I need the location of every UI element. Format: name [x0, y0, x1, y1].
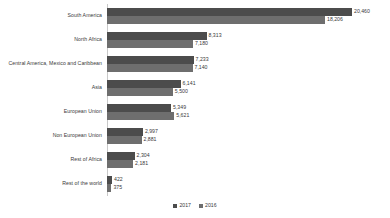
bar-value-2016: 18,206: [327, 17, 343, 22]
bar-value-2017: 7,233: [196, 57, 209, 62]
category-label: Rest of Africa: [0, 157, 106, 163]
legend-item-2016[interactable]: 2016: [199, 203, 217, 208]
bar-rows: South America 20,460 18,206 North Africa: [0, 4, 390, 196]
bar-2016[interactable]: [107, 160, 133, 168]
bar-2017[interactable]: [107, 8, 352, 16]
bar-2016[interactable]: [107, 88, 173, 96]
chart-row: Rest of Africa 2,304 2,181: [0, 148, 390, 172]
bar-line-2017: 6,141: [107, 80, 390, 88]
category-label: North Africa: [0, 37, 106, 43]
category-label: Non European Union: [0, 133, 106, 139]
bar-line-2016: 5,500: [107, 88, 390, 96]
bar-line-2016: 7,140: [107, 64, 390, 72]
bar-group: 2,997 2,881: [106, 124, 390, 148]
bar-value-2016: 5,500: [175, 89, 188, 94]
plot-area: South America 20,460 18,206 North Africa: [0, 4, 390, 196]
chart-row: European Union 5,349 5,621: [0, 100, 390, 124]
category-label: European Union: [0, 109, 106, 115]
bar-line-2017: 8,313: [107, 32, 390, 40]
legend-label: 2017: [179, 203, 191, 208]
bar-line-2017: 2,304: [107, 152, 390, 160]
bar-2017[interactable]: [107, 152, 135, 160]
bar-2016[interactable]: [107, 40, 193, 48]
bar-value-2016: 7,140: [195, 65, 208, 70]
bar-line-2017: 5,349: [107, 104, 390, 112]
bar-chart: South America 20,460 18,206 North Africa: [0, 0, 390, 218]
bar-line-2017: 7,233: [107, 56, 390, 64]
bar-2017[interactable]: [107, 176, 112, 184]
bar-group: 8,313 7,180: [106, 28, 390, 52]
bar-line-2017: 2,997: [107, 128, 390, 136]
chart-row: Rest of the world 422 375: [0, 172, 390, 196]
bar-2017[interactable]: [107, 80, 181, 88]
bar-2016[interactable]: [107, 112, 174, 120]
bar-value-2017: 5,349: [173, 105, 186, 110]
bar-value-2017: 20,460: [354, 9, 370, 14]
legend-swatch-icon: [199, 204, 203, 208]
category-label: South America: [0, 13, 106, 19]
category-label: Rest of the world: [0, 181, 106, 187]
bar-2017[interactable]: [107, 104, 171, 112]
bar-line-2016: 2,881: [107, 136, 390, 144]
chart-row: Non European Union 2,997 2,881: [0, 124, 390, 148]
bar-2016[interactable]: [107, 16, 325, 24]
chart-legend: 2017 2016: [0, 203, 390, 208]
chart-row: Central America, Mexico and Caribbean 7,…: [0, 52, 390, 76]
bar-2016[interactable]: [107, 184, 111, 192]
bar-value-2017: 8,313: [209, 33, 222, 38]
bar-value-2016: 7,180: [195, 41, 208, 46]
bar-value-2016: 5,621: [176, 113, 189, 118]
legend-item-2017[interactable]: 2017: [173, 203, 191, 208]
bar-value-2017: 422: [114, 177, 123, 182]
bar-line-2016: 5,621: [107, 112, 390, 120]
bar-group: 6,141 5,500: [106, 76, 390, 100]
bar-2017[interactable]: [107, 128, 143, 136]
bar-line-2016: 375: [107, 184, 390, 192]
bar-2017[interactable]: [107, 56, 194, 64]
bar-value-2017: 2,304: [137, 153, 150, 158]
bar-2017[interactable]: [107, 32, 207, 40]
bar-line-2017: 422: [107, 176, 390, 184]
legend-label: 2016: [205, 203, 217, 208]
bar-group: 20,460 18,206: [106, 4, 390, 28]
bar-group: 7,233 7,140: [106, 52, 390, 76]
bar-value-2016: 375: [113, 185, 122, 190]
category-label: Asia: [0, 85, 106, 91]
bar-2016[interactable]: [107, 64, 193, 72]
bar-line-2016: 18,206: [107, 16, 390, 24]
legend-swatch-icon: [173, 204, 177, 208]
bar-value-2017: 2,997: [145, 129, 158, 134]
category-label: Central America, Mexico and Caribbean: [0, 61, 106, 67]
chart-row: South America 20,460 18,206: [0, 4, 390, 28]
bar-group: 422 375: [106, 172, 390, 196]
bar-2016[interactable]: [107, 136, 142, 144]
bar-line-2017: 20,460: [107, 8, 390, 16]
bar-line-2016: 2,181: [107, 160, 390, 168]
bar-value-2017: 6,141: [183, 81, 196, 86]
chart-row: North Africa 8,313 7,180: [0, 28, 390, 52]
bar-line-2016: 7,180: [107, 40, 390, 48]
chart-row: Asia 6,141 5,500: [0, 76, 390, 100]
bar-value-2016: 2,181: [135, 161, 148, 166]
bar-group: 5,349 5,621: [106, 100, 390, 124]
bar-value-2016: 2,881: [144, 137, 157, 142]
bar-group: 2,304 2,181: [106, 148, 390, 172]
